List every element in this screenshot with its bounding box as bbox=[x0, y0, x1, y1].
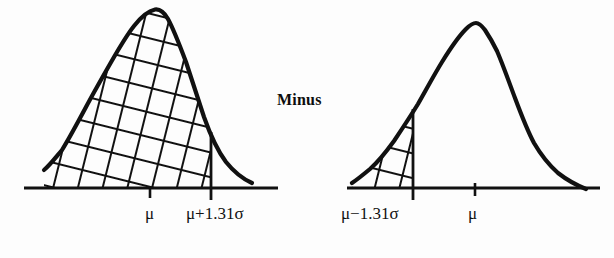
operator-label-minus: Minus bbox=[277, 92, 322, 108]
right-axis-label-mu: μ bbox=[468, 205, 477, 222]
distribution-figure-canvas bbox=[0, 0, 614, 258]
left-distribution-panel bbox=[24, 0, 278, 200]
left-axis-label-boundary: μ+1.31σ bbox=[186, 205, 244, 222]
right-distribution-panel bbox=[340, 23, 600, 200]
right-axis-label-boundary: μ−1.31σ bbox=[341, 205, 399, 222]
figure-root: μ μ+1.31σ Minus μ−1.31σ μ bbox=[0, 0, 614, 258]
left-axis-label-mu: μ bbox=[145, 205, 154, 222]
